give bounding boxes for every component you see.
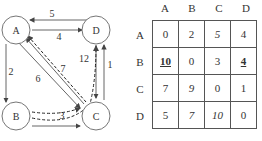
col-header-D: D [233, 2, 259, 14]
matrix-row: 0 2 5 4 [153, 21, 257, 48]
col-header-A: A [152, 2, 178, 14]
cell: 4 [231, 21, 257, 48]
row-header-D: D [130, 110, 150, 122]
cell: 10 [153, 48, 179, 75]
svg-text:7: 7 [61, 63, 66, 74]
cell: 0 [179, 48, 205, 75]
cell: 1 [231, 75, 257, 102]
cell: 2 [179, 21, 205, 48]
svg-text:12: 12 [79, 53, 89, 64]
row-header-A: A [130, 29, 150, 41]
cell: 7 [179, 102, 205, 129]
cell: 7 [153, 75, 179, 102]
col-header-C: C [206, 2, 232, 14]
matrix-row: 10 0 3 4 [153, 48, 257, 75]
cell: 5 [153, 102, 179, 129]
svg-text:B: B [13, 111, 20, 122]
svg-text:D: D [92, 25, 99, 36]
cell: 9 [179, 75, 205, 102]
cell: 3 [205, 48, 231, 75]
cell: 5 [205, 21, 231, 48]
matrix-row: 7 9 0 1 [153, 75, 257, 102]
row-header-B: B [130, 56, 150, 68]
svg-text:1: 1 [108, 59, 113, 70]
matrix-row: 5 7 10 0 [153, 102, 257, 129]
svg-text:5: 5 [50, 8, 55, 19]
graph-diagram: A D B C 5 4 2 6 7 12 1 3 [0, 0, 130, 141]
cell: 0 [153, 21, 179, 48]
cell: 0 [205, 75, 231, 102]
cell: 0 [231, 102, 257, 129]
col-header-B: B [179, 2, 205, 14]
svg-text:4: 4 [57, 31, 62, 42]
svg-text:3: 3 [60, 110, 65, 121]
cell: 4 [231, 48, 257, 75]
svg-text:6: 6 [36, 73, 41, 84]
svg-text:A: A [12, 25, 20, 36]
svg-text:2: 2 [9, 66, 14, 77]
row-header-C: C [130, 83, 150, 95]
cell: 10 [205, 102, 231, 129]
svg-text:C: C [93, 111, 100, 122]
distance-matrix: 0 2 5 4 10 0 3 4 7 9 0 1 5 7 10 0 [152, 20, 257, 129]
